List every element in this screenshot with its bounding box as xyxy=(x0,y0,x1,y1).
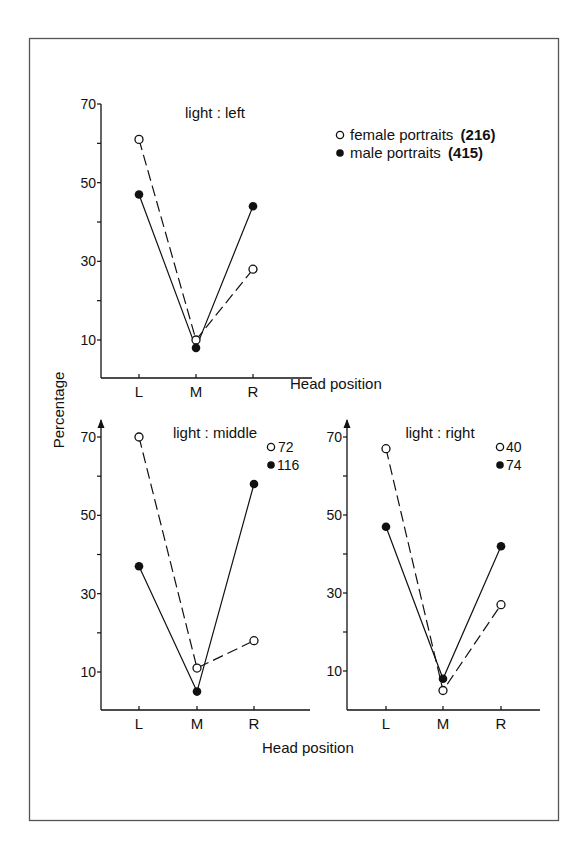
panel-light-middle: 10305070LMR xyxy=(80,419,310,732)
y-axis-label: Percentage xyxy=(50,372,67,449)
y-tick-label: 10 xyxy=(80,332,96,348)
male-count-label: 74 xyxy=(506,457,522,473)
female-count-label: 72 xyxy=(278,439,294,455)
x-tick-label: R xyxy=(496,715,507,732)
female-data-point xyxy=(192,336,200,344)
female-data-point xyxy=(193,664,201,672)
x-axis-label-bottom: Head position xyxy=(262,739,354,756)
panel-title-light-middle: light : middle xyxy=(173,424,257,441)
male-series-line xyxy=(139,484,254,692)
male-count-label: 116 xyxy=(277,457,300,473)
female-data-point xyxy=(135,135,143,143)
male-data-point xyxy=(192,344,201,353)
inline-legend-light-right: 40 74 xyxy=(496,439,522,473)
female-data-point xyxy=(135,433,143,441)
y-tick-label: 70 xyxy=(80,429,96,445)
x-tick-label: L xyxy=(382,715,390,732)
y-tick-label: 30 xyxy=(80,253,96,269)
male-data-point xyxy=(135,190,144,199)
y-tick-label: 50 xyxy=(326,507,342,523)
male-data-point xyxy=(193,687,202,696)
y-axis-arrow-icon xyxy=(344,419,351,428)
y-tick-label: 10 xyxy=(326,663,342,679)
x-tick-label: M xyxy=(437,715,450,732)
male-count-marker-icon xyxy=(496,461,504,469)
female-data-point xyxy=(497,601,505,609)
legend-male-marker-icon xyxy=(336,149,344,157)
female-data-point xyxy=(439,687,447,695)
legend: female portraits (216) male portraits (4… xyxy=(336,126,495,161)
male-data-point xyxy=(439,675,448,684)
y-tick-label: 70 xyxy=(326,429,342,445)
panel-title-light-right: light : right xyxy=(405,424,475,441)
figure: Percentage 10305070LMR light : left Head… xyxy=(0,0,581,846)
y-tick-label: 30 xyxy=(80,586,96,602)
female-count-label: 40 xyxy=(506,439,522,455)
x-axis-label-top: Head position xyxy=(290,375,382,392)
male-data-point xyxy=(497,542,506,551)
y-tick-label: 50 xyxy=(80,507,96,523)
female-series-line xyxy=(139,437,254,668)
male-data-point xyxy=(135,562,144,571)
female-data-point xyxy=(250,637,258,645)
y-tick-label: 10 xyxy=(80,664,96,680)
x-tick-label: L xyxy=(135,383,143,400)
female-data-point xyxy=(382,445,390,453)
male-data-point xyxy=(250,480,259,489)
female-series-line xyxy=(386,449,501,691)
y-tick-label: 30 xyxy=(326,585,342,601)
inline-legend-light-middle: 72 116 xyxy=(267,439,299,473)
x-tick-label: M xyxy=(191,715,204,732)
male-count-marker-icon xyxy=(267,461,275,469)
legend-male-label: male portraits (415) xyxy=(350,144,483,161)
y-tick-label: 50 xyxy=(80,175,96,191)
x-tick-label: R xyxy=(249,715,260,732)
panel-title-light-left: light : left xyxy=(185,104,246,121)
male-data-point xyxy=(249,202,258,211)
legend-female-marker-icon xyxy=(336,131,343,138)
male-series-line xyxy=(139,194,253,347)
male-series-line xyxy=(386,527,501,679)
panel-light-left: 10305070LMR xyxy=(80,96,312,400)
y-tick-label: 70 xyxy=(80,96,96,112)
x-tick-label: R xyxy=(248,383,259,400)
x-tick-label: M xyxy=(190,383,203,400)
female-count-marker-icon xyxy=(496,443,503,450)
y-axis-arrow-icon xyxy=(98,419,105,428)
x-tick-label: L xyxy=(135,715,143,732)
male-data-point xyxy=(382,522,391,531)
female-count-marker-icon xyxy=(267,443,274,450)
legend-female-label: female portraits (216) xyxy=(350,126,496,143)
female-data-point xyxy=(249,265,257,273)
